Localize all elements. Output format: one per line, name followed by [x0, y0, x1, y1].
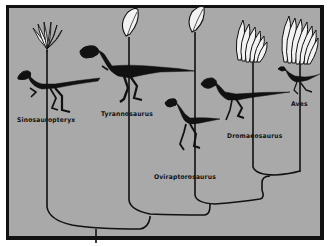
feather-cluster-icon — [282, 16, 318, 64]
label-oviraptorosaurus: Oviraptorosaurus — [154, 173, 216, 181]
vaned-feather-icon — [189, 7, 204, 32]
aves-skeleton — [278, 67, 320, 94]
label-tyrannosaurus: Tyrannosaurus — [101, 110, 153, 118]
oviraptorosaurus-skeleton — [165, 99, 220, 150]
sinosauropteryx-skeleton — [18, 71, 100, 112]
dromaeosaurus-skeleton — [201, 78, 290, 120]
feather-cluster-icon — [236, 20, 267, 62]
vaned-feather-icon — [122, 8, 138, 36]
label-dromaeosaurus: Dromaeosaurus — [227, 132, 282, 140]
label-sinosauropteryx: Sinosauropteryx — [17, 116, 75, 124]
downy-feather-icon — [33, 22, 62, 52]
label-aves: Aves — [291, 100, 308, 108]
tyrannosaurus-skeleton — [80, 46, 195, 102]
node-dromaeosaur-aves — [262, 176, 270, 183]
branch-tyrannosaurus — [129, 37, 210, 215]
